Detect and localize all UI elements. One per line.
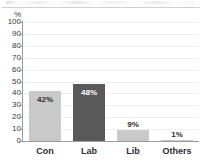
x-axis-category-label: Lab xyxy=(67,146,111,157)
y-axis-tick-label: 70 xyxy=(0,54,21,62)
y-axis-tick-label: 40 xyxy=(0,89,21,97)
y-axis-tick-label: 10 xyxy=(0,125,21,133)
y-axis-tick-label: 80 xyxy=(0,42,21,50)
y-axis-tick-mark xyxy=(19,34,22,35)
y-axis-tick-mark xyxy=(19,82,22,83)
y-axis-tick-label: 30 xyxy=(0,101,21,109)
y-axis-tick-mark xyxy=(19,93,22,94)
bar[interactable]: 1% xyxy=(161,140,193,142)
chart-screenshot: % 1009080706050403020100 42%48%9%1% ConL… xyxy=(0,0,202,166)
x-axis-category-label: Lib xyxy=(111,146,155,157)
bar-chart: % 1009080706050403020100 42%48%9%1% ConL… xyxy=(0,0,202,166)
y-axis-tick-mark xyxy=(19,58,22,59)
x-axis-category-label: Others xyxy=(155,146,199,157)
bar[interactable]: 42% xyxy=(29,91,61,141)
y-axis-tick-mark xyxy=(19,117,22,118)
bar-slot: 9% xyxy=(117,22,149,141)
y-axis-tick-label: 90 xyxy=(0,30,21,38)
bar[interactable]: 48% xyxy=(73,84,105,141)
x-axis-line xyxy=(22,141,199,142)
bar[interactable]: 9% xyxy=(117,130,149,141)
bar-slot: 48% xyxy=(73,22,105,141)
y-axis-tick-mark xyxy=(19,70,22,71)
bar-value-label: 42% xyxy=(29,95,61,104)
y-axis-tick-label: 20 xyxy=(0,113,21,121)
y-axis-tick-mark xyxy=(19,129,22,130)
bar-group: 42%48%9%1% xyxy=(23,22,199,141)
y-axis-tick-label: 50 xyxy=(0,78,21,86)
x-axis-category-labels: ConLabLibOthers xyxy=(23,146,199,160)
x-axis-category-label: Con xyxy=(23,146,67,157)
bar-slot: 42% xyxy=(29,22,61,141)
y-axis-tick-label: 0 xyxy=(0,137,21,145)
y-axis-tick-mark xyxy=(19,46,22,47)
y-axis-tick-labels: 1009080706050403020100 xyxy=(0,0,21,166)
y-axis-tick-label: 100 xyxy=(0,18,21,26)
y-axis-tick-mark xyxy=(19,105,22,106)
y-axis-tick-mark xyxy=(19,22,22,23)
bar-value-label: 1% xyxy=(161,130,193,139)
bar-value-label: 9% xyxy=(117,120,149,129)
y-axis-tick-mark xyxy=(19,141,22,142)
y-axis-tick-label: 60 xyxy=(0,66,21,74)
bar-slot: 1% xyxy=(161,22,193,141)
bar-value-label: 48% xyxy=(73,88,105,97)
